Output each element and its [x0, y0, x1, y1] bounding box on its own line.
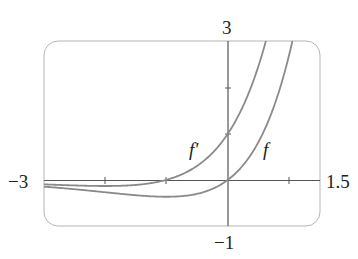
plot-frame — [44, 41, 320, 226]
y-max-label: 3 — [222, 18, 232, 37]
curve-f — [44, 0, 320, 197]
y-min-label: −1 — [214, 233, 234, 252]
x-min-label: −3 — [8, 172, 28, 191]
f-prime-label: f′ — [189, 140, 198, 159]
plot-area — [0, 0, 358, 259]
x-max-label: 1.5 — [326, 172, 350, 191]
f-label: f — [263, 140, 268, 159]
